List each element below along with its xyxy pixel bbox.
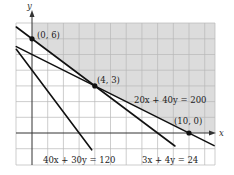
label-eq-20x-40y-200: 20x + 40y = 200: [134, 95, 207, 105]
label-point-4-3: (4, 3): [97, 75, 120, 85]
point-0-6: [29, 36, 34, 41]
y-axis-arrow-icon: [30, 10, 35, 17]
linear-programming-graph: x y (0, 6) (4, 3) (10, 0) 20x + 40y = 20…: [0, 0, 234, 175]
label-point-0-6: (0, 6): [37, 30, 60, 40]
y-axis-label: y: [26, 1, 32, 11]
label-eq-3x-4y-24: 3x + 4y = 24: [142, 155, 198, 165]
label-eq-40x-30y-120: 40x + 30y = 120: [43, 155, 116, 165]
label-point-10-0: (10, 0): [174, 116, 202, 126]
point-10-0: [186, 130, 191, 135]
x-axis-label: x: [219, 128, 224, 138]
